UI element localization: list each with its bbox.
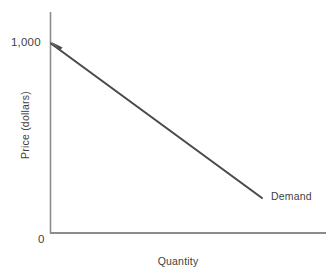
demand-series-label: Demand xyxy=(271,191,312,202)
demand-curve-line xyxy=(51,44,262,199)
chart-canvas xyxy=(0,0,332,278)
axis-origin-label: 0 xyxy=(38,234,45,246)
y-axis-title: Price (dollars) xyxy=(20,91,31,159)
y-axis-tick-label-1000: 1,000 xyxy=(11,37,41,49)
x-axis-title: Quantity xyxy=(158,256,199,267)
demand-curve-chart: 1,000 0 Price (dollars) Quantity Demand xyxy=(0,0,332,278)
